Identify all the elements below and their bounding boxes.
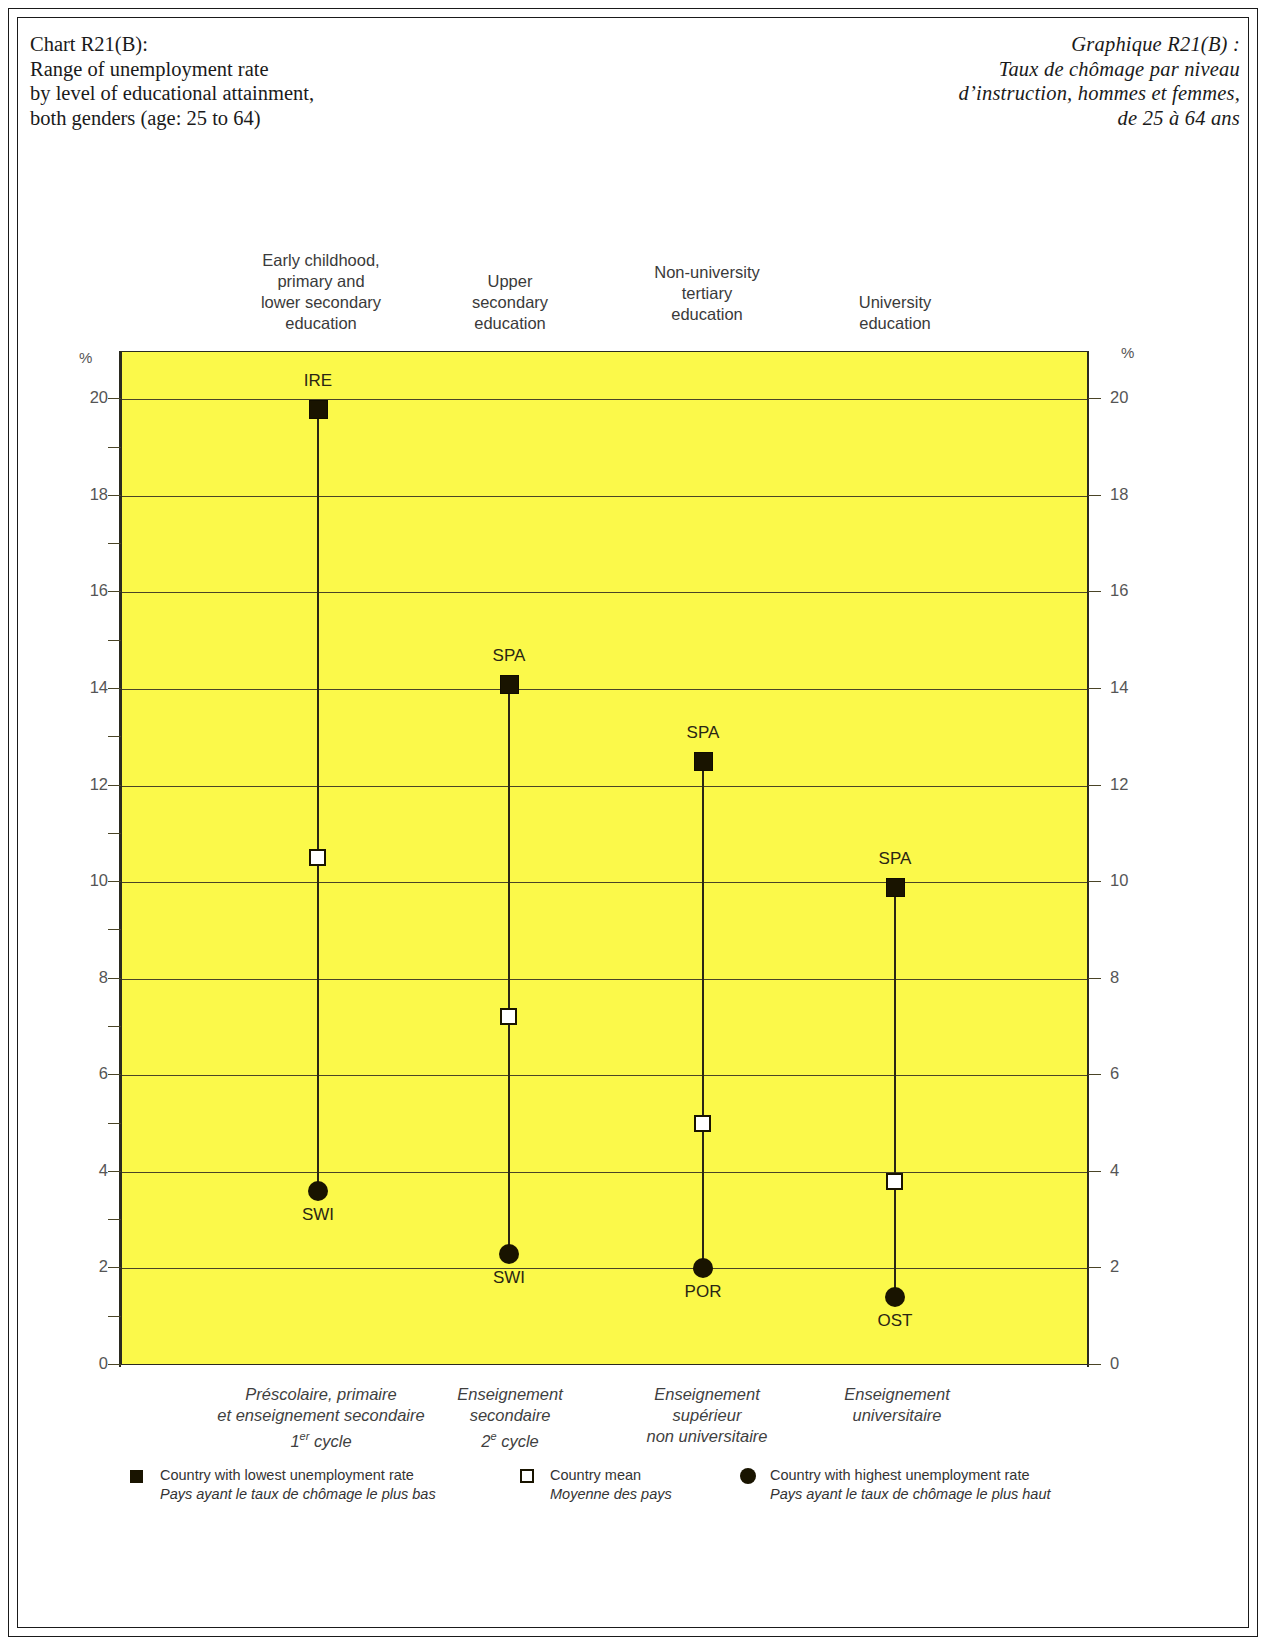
tick-left-8 — [108, 978, 121, 979]
marker-country-mean-1 — [500, 1008, 517, 1025]
tick-left-10 — [108, 881, 121, 882]
legend-2-en: Country with highest unemployment rate — [770, 1466, 1051, 1485]
tick-left-6 — [108, 1074, 121, 1075]
y-axis-label-right-18: 18 — [1110, 485, 1170, 504]
y-axis-label-right-12: 12 — [1110, 775, 1170, 794]
minor-tick-13 — [108, 736, 121, 737]
y-axis-label-left-4: 4 — [48, 1161, 108, 1180]
point-label-highest-1: SWI — [449, 1268, 569, 1288]
cat2-fr-line-3: non universitaire — [587, 1426, 827, 1447]
col3-header-line-2: education — [777, 313, 1013, 334]
minor-tick-11 — [108, 833, 121, 834]
marker-lowest-rate-3 — [886, 878, 905, 897]
col3-header-line-1: University — [777, 292, 1013, 313]
tick-right-10 — [1088, 881, 1101, 882]
col0-header-line-1: Early childhood, — [203, 250, 439, 271]
title-en-line-4: both genders (age: 25 to 64) — [30, 106, 590, 131]
tick-right-2 — [1088, 1267, 1101, 1268]
y-axis-unit-left: % — [79, 349, 92, 366]
marker-country-mean-2 — [694, 1115, 711, 1132]
title-en-line-2: Range of unemployment rate — [30, 57, 590, 82]
tick-right-6 — [1088, 1074, 1101, 1075]
filled-square-icon — [130, 1470, 143, 1483]
cat3-fr-line-1: Enseignement — [779, 1384, 1015, 1405]
tick-left-20 — [108, 398, 121, 399]
y-axis-label-right-4: 4 — [1110, 1161, 1170, 1180]
tick-right-12 — [1088, 785, 1101, 786]
title-en-line-3: by level of educational attainment, — [30, 81, 590, 106]
category-label-fr-3: Enseignement universitaire — [779, 1384, 1015, 1426]
y-axis-label-left-0: 0 — [48, 1354, 108, 1373]
marker-lowest-rate-0 — [309, 400, 328, 419]
legend-item-mean: Country mean Moyenne des pays — [520, 1466, 672, 1504]
marker-highest-rate-1 — [499, 1244, 519, 1264]
gridline-10 — [122, 882, 1087, 883]
point-label-lowest-3: SPA — [835, 849, 955, 869]
gridline-20 — [122, 399, 1087, 400]
marker-lowest-rate-2 — [694, 752, 713, 771]
tick-right-4 — [1088, 1171, 1101, 1172]
point-label-highest-2: POR — [643, 1282, 763, 1302]
y-axis-label-left-12: 12 — [48, 775, 108, 794]
y-axis-label-right-2: 2 — [1110, 1257, 1170, 1276]
range-stem-3 — [894, 887, 896, 1297]
title-en-line-1: Chart R21(B): — [30, 32, 590, 57]
y-axis-label-right-16: 16 — [1110, 581, 1170, 600]
minor-tick-7 — [108, 1026, 121, 1027]
col2-header-line-1: Non-university — [589, 262, 825, 283]
minor-tick-17 — [108, 543, 121, 544]
gridline-16 — [122, 592, 1087, 593]
range-stem-2 — [702, 761, 704, 1268]
marker-lowest-rate-1 — [500, 675, 519, 694]
title-fr-line-1: Graphique R21(B) : — [680, 32, 1240, 57]
y-axis-label-left-16: 16 — [48, 581, 108, 600]
minor-tick-9 — [108, 929, 121, 930]
chart-title-french: Graphique R21(B) : Taux de chômage par n… — [680, 32, 1240, 130]
point-label-highest-0: SWI — [258, 1205, 378, 1225]
title-fr-line-3: d’instruction, hommes et femmes, — [680, 81, 1240, 106]
tick-left-2 — [108, 1267, 121, 1268]
tick-left-18 — [108, 495, 121, 496]
tick-right-16 — [1088, 591, 1101, 592]
y-axis-label-left-18: 18 — [48, 485, 108, 504]
point-label-lowest-2: SPA — [643, 723, 763, 743]
gridline-12 — [122, 786, 1087, 787]
y-axis-label-left-10: 10 — [48, 871, 108, 890]
legend-item-lowest: Country with lowest unemployment rate Pa… — [130, 1466, 436, 1504]
legend-0-en: Country with lowest unemployment rate — [160, 1466, 436, 1485]
y-axis-label-left-20: 20 — [48, 388, 108, 407]
y-axis-label-right-20: 20 — [1110, 388, 1170, 407]
legend-1-fr: Moyenne des pays — [550, 1485, 672, 1504]
minor-tick-3 — [108, 1219, 121, 1220]
tick-left-4 — [108, 1171, 121, 1172]
legend: Country with lowest unemployment rate Pa… — [130, 1466, 1130, 1522]
gridline-14 — [122, 689, 1087, 690]
tick-right-8 — [1088, 978, 1101, 979]
title-fr-line-4: de 25 à 64 ans — [680, 106, 1240, 131]
tick-right-18 — [1088, 495, 1101, 496]
tick-left-14 — [108, 688, 121, 689]
marker-country-mean-0 — [309, 849, 326, 866]
y-axis-label-left-14: 14 — [48, 678, 108, 697]
tick-right-0 — [1088, 1364, 1101, 1365]
y-axis-right-line — [1087, 351, 1089, 1367]
y-axis-label-right-8: 8 — [1110, 968, 1170, 987]
y-axis-label-right-6: 6 — [1110, 1064, 1170, 1083]
tick-left-0 — [108, 1364, 121, 1365]
y-axis-unit-right: % — [1121, 344, 1134, 361]
open-square-icon — [520, 1469, 534, 1483]
title-fr-line-2: Taux de chômage par niveau — [680, 57, 1240, 82]
y-axis-label-right-10: 10 — [1110, 871, 1170, 890]
point-label-lowest-0: IRE — [258, 371, 378, 391]
minor-tick-1 — [108, 1316, 121, 1317]
minor-tick-19 — [108, 447, 121, 448]
column-header-university: University education — [777, 292, 1013, 334]
minor-tick-5 — [108, 1123, 121, 1124]
chart-page: Chart R21(B): Range of unemployment rate… — [0, 0, 1268, 1647]
y-axis-label-right-0: 0 — [1110, 1354, 1170, 1373]
legend-item-highest: Country with highest unemployment rate P… — [740, 1466, 1051, 1504]
y-axis-label-right-14: 14 — [1110, 678, 1170, 697]
gridline-2 — [122, 1268, 1087, 1269]
range-stem-0 — [317, 409, 319, 1191]
y-axis-label-left-2: 2 — [48, 1257, 108, 1276]
